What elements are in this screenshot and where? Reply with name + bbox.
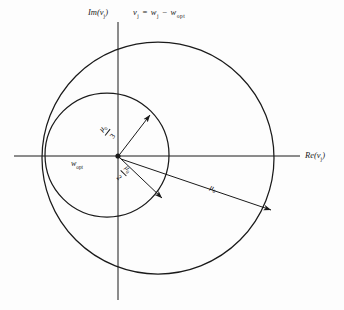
origin-dot: [115, 153, 120, 158]
complex-plane-diagram: Im(vj) vj = wj − wopt Re(vj) wopt μ0 3 μ…: [0, 0, 344, 310]
diagram-canvas: [0, 0, 344, 310]
mu-zero-arrow: [121, 159, 271, 210]
definition-equation: vj = wj − wopt: [133, 8, 185, 19]
inner-circle: [45, 93, 169, 217]
outer-circle: [42, 42, 274, 274]
real-axis-label: Re(vj): [305, 151, 325, 162]
mu-over-3-arrow: [120, 115, 150, 154]
imaginary-axis-label: Im(vj): [88, 8, 108, 19]
origin-label: wopt: [71, 160, 83, 170]
